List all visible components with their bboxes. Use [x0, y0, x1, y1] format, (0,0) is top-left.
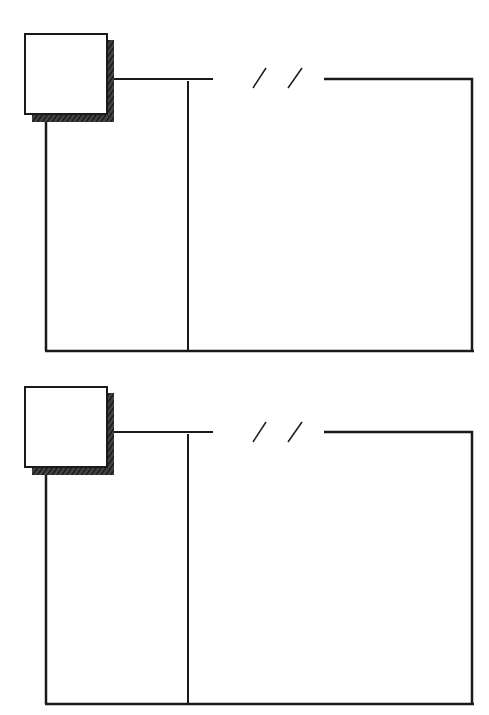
- panel-1: [0, 0, 489, 340]
- top-rule-right: [324, 79, 472, 351]
- panel-2: [0, 353, 489, 693]
- break-marker: [253, 422, 302, 442]
- break-marker: [253, 68, 302, 88]
- label-box: [25, 387, 107, 467]
- label-box: [25, 34, 107, 114]
- top-rule-right: [324, 432, 472, 704]
- panel-frame-drawing: [0, 353, 489, 715]
- panel-frame-drawing: [0, 0, 489, 360]
